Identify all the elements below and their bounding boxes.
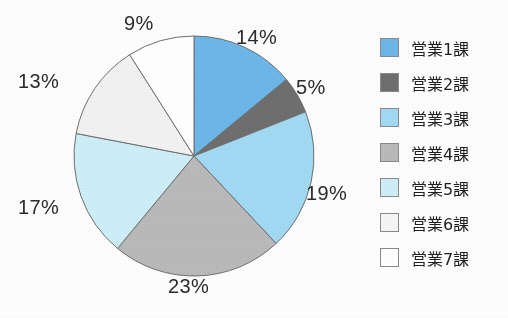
legend-item-label: 営業6課 (411, 211, 469, 235)
pie-slice-percent-label: 14% (236, 26, 277, 49)
chart-legend: 営業1課営業2課営業3課営業4課営業5課営業6課営業7課 (380, 30, 504, 275)
legend-item-label: 営業2課 (411, 71, 469, 95)
pie-chart-area: 14%5%19%23%17%13%9% (0, 0, 368, 318)
pie-slice-percent-label: 5% (296, 76, 326, 99)
legend-item[interactable]: 営業3課 (380, 100, 504, 135)
pie-slice-percent-label: 9% (124, 12, 154, 35)
legend-color-swatch (380, 143, 399, 162)
pie-slice-percent-label: 17% (18, 196, 59, 219)
pie-slice-percent-label: 19% (306, 182, 347, 205)
legend-color-swatch (380, 38, 399, 57)
legend-item-label: 営業7課 (411, 246, 469, 270)
legend-item-label: 営業4課 (411, 141, 469, 165)
legend-item-label: 営業3課 (411, 106, 469, 130)
legend-color-swatch (380, 73, 399, 92)
legend-item-label: 営業1課 (411, 36, 469, 60)
legend-item[interactable]: 営業2課 (380, 65, 504, 100)
legend-color-swatch (380, 108, 399, 127)
pie-slice-percent-label: 13% (18, 70, 59, 93)
pie-chart-svg (0, 0, 368, 318)
legend-item[interactable]: 営業6課 (380, 205, 504, 240)
legend-item[interactable]: 営業5課 (380, 170, 504, 205)
legend-item[interactable]: 営業4課 (380, 135, 504, 170)
legend-color-swatch (380, 213, 399, 232)
pie-slices-group (74, 36, 314, 276)
chart-page: 14%5%19%23%17%13%9% 営業1課営業2課営業3課営業4課営業5課… (0, 0, 508, 318)
legend-item[interactable]: 営業7課 (380, 240, 504, 275)
legend-color-swatch (380, 248, 399, 267)
pie-slice-percent-label: 23% (168, 275, 209, 298)
legend-color-swatch (380, 178, 399, 197)
legend-item[interactable]: 営業1課 (380, 30, 504, 65)
legend-item-label: 営業5課 (411, 176, 469, 200)
